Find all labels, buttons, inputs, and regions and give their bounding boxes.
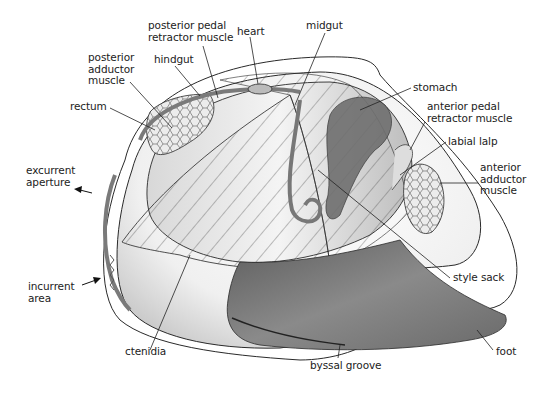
arrow-excurrent — [74, 186, 92, 193]
label-posterior-adductor-muscle: posterior adductor muscle — [88, 52, 134, 87]
label-rectum: rectum — [70, 101, 107, 113]
label-excurrent-aperture: excurrent aperture — [26, 165, 75, 188]
label-stomach: stomach — [413, 82, 457, 94]
label-anterior-adductor-muscle: anterior adductor muscle — [480, 162, 526, 197]
label-midgut: midgut — [306, 20, 343, 32]
anatomy-illustration — [0, 0, 557, 393]
label-byssal-groove: byssal groove — [310, 360, 381, 372]
bivalve-anatomy-diagram: posterior pedal retractor muscle heart m… — [0, 0, 557, 393]
label-heart: heart — [237, 26, 264, 38]
label-labial-lalp: labial lalp — [448, 136, 497, 148]
heart-shape — [248, 84, 272, 94]
label-posterior-pedal-retractor-muscle: posterior pedal retractor muscle — [148, 20, 233, 43]
label-style-sack: style sack — [453, 272, 504, 284]
label-ctenidia: ctenidia — [125, 346, 166, 358]
label-anterior-pedal-retractor-muscle: anterior pedal retractor muscle — [427, 101, 512, 124]
arrow-incurrent — [82, 277, 101, 285]
label-foot: foot — [496, 346, 516, 358]
label-hindgut: hindgut — [154, 54, 194, 66]
label-incurrent-area: incurrent area — [28, 281, 75, 304]
